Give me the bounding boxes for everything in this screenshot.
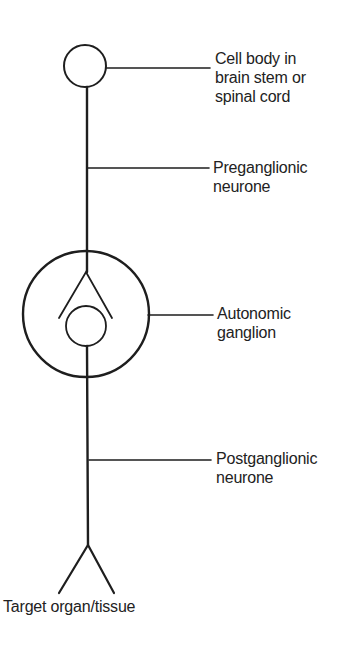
cell-body-label-line: Cell body in bbox=[215, 49, 306, 68]
cell-body-circle bbox=[64, 45, 106, 87]
preganglionic-label-line: Preganglionic bbox=[213, 158, 307, 177]
synapse-fork bbox=[59, 272, 112, 318]
ganglion-cell-body bbox=[66, 306, 106, 346]
target-fork bbox=[59, 545, 114, 593]
postganglionic-label: Postganglionic neurone bbox=[216, 449, 317, 487]
preganglionic-label-line: neurone bbox=[213, 177, 307, 196]
postganglionic-label-line: neurone bbox=[216, 468, 317, 487]
ganglion-label-line: Autonomic bbox=[217, 304, 291, 323]
ganglion-label: Autonomic ganglion bbox=[217, 304, 291, 342]
target-label: Target organ/tissue bbox=[3, 597, 135, 616]
postganglionic-label-line: Postganglionic bbox=[216, 449, 317, 468]
diagram-canvas bbox=[0, 0, 363, 650]
ganglion-label-line: ganglion bbox=[217, 323, 291, 342]
cell-body-label: Cell body in brain stem or spinal cord bbox=[215, 49, 306, 106]
cell-body-label-line: brain stem or bbox=[215, 68, 306, 87]
preganglionic-label: Preganglionic neurone bbox=[213, 158, 307, 196]
postganglionic-axon bbox=[87, 346, 88, 545]
cell-body-label-line: spinal cord bbox=[215, 87, 306, 106]
